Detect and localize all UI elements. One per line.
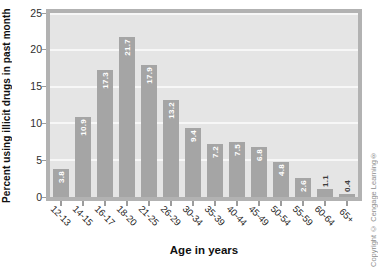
bar-value-label: 6.8 (255, 149, 264, 161)
bar-value-label: 2.6 (299, 180, 308, 192)
x-tick-mark (104, 201, 106, 206)
x-tick-label-40-44: 40-44 (225, 203, 250, 228)
y-tick-mark (42, 49, 46, 50)
bar-value-label: 10.9 (79, 119, 88, 136)
copyright-notice: Copyright © Cengage Learning® (369, 151, 378, 267)
x-tick-mark (126, 201, 128, 206)
x-tick-mark (346, 201, 348, 206)
bar-18-20 (119, 37, 135, 197)
bar-value-label: 3.8 (57, 171, 66, 183)
bar-21-25 (141, 65, 157, 197)
y-tick-label: 10 (14, 117, 42, 130)
bar-60-64 (317, 189, 333, 197)
x-tick-mark (192, 201, 194, 206)
y-tick-label: 15 (14, 80, 42, 93)
y-tick-mark (42, 123, 46, 124)
y-tick-label: 25 (14, 7, 42, 20)
x-tick-mark (280, 201, 282, 206)
y-axis-title: Percent using illicit drugs in past mont… (1, 0, 12, 212)
x-tick-mark (236, 201, 238, 206)
x-tick-label-30-34: 30-34 (181, 203, 206, 228)
y-tick-mark (42, 160, 46, 161)
x-tick-mark (60, 201, 62, 206)
y-tick-label: 0 (14, 191, 42, 204)
x-axis-title: Age in years (46, 244, 362, 256)
gridline-25 (50, 13, 358, 15)
bar-value-label: 7.2 (211, 146, 220, 158)
x-tick-label-65+: 65+ (337, 206, 356, 225)
x-tick-mark (258, 201, 260, 206)
bar-value-label: 17.9 (145, 67, 154, 84)
x-tick-mark (214, 201, 216, 206)
x-tick-label-26-29: 26-29 (159, 203, 184, 228)
bar-value-label: 17.3 (101, 72, 110, 89)
x-tick-label-21-25: 21-25 (137, 203, 162, 228)
x-tick-mark (82, 201, 84, 206)
bar-chart-figure: Percent using illicit drugs in past mont… (0, 0, 379, 270)
bar-value-label: 7.5 (233, 144, 242, 156)
x-tick-mark (324, 201, 326, 206)
x-tick-label-50-54: 50-54 (269, 203, 294, 228)
y-tick-mark (42, 13, 46, 14)
bar-value-label: 9.4 (189, 130, 198, 142)
bar-value-label: 4.8 (277, 164, 286, 176)
x-tick-label-18-20: 18-20 (115, 203, 140, 228)
y-tick-label: 20 (14, 43, 42, 56)
gridline-20 (50, 49, 358, 51)
x-tick-label-35-39: 35-39 (203, 203, 228, 228)
x-tick-mark (148, 201, 150, 206)
x-tick-label-60-64: 60-64 (313, 203, 338, 228)
y-tick-label: 5 (14, 154, 42, 167)
plot-area: 3.810.917.321.717.913.29.47.27.56.84.82.… (46, 9, 362, 201)
bar-value-label: 0.4 (343, 180, 352, 192)
bar-16-17 (97, 70, 113, 197)
x-tick-label-55-59: 55-59 (291, 203, 316, 228)
bar-65+ (339, 194, 355, 197)
bar-value-label: 21.7 (123, 39, 132, 56)
x-tick-label-45-49: 45-49 (247, 203, 272, 228)
bar-value-label: 13.2 (167, 102, 176, 119)
x-tick-label-16-17: 16-17 (93, 203, 118, 228)
bar-value-label: 1.1 (321, 175, 330, 187)
y-tick-mark (42, 86, 46, 87)
x-tick-label-14-15: 14-15 (71, 203, 96, 228)
x-tick-label-12-13: 12-13 (49, 203, 74, 228)
x-tick-mark (170, 201, 172, 206)
x-tick-mark (302, 201, 304, 206)
y-tick-mark (42, 197, 46, 198)
